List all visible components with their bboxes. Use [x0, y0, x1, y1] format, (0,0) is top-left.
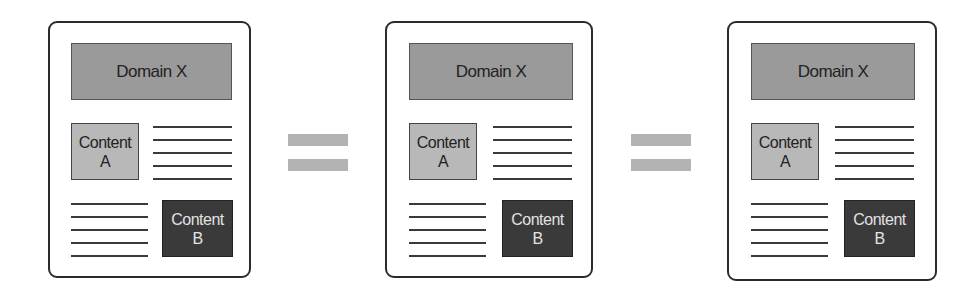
- content-b-box: Content B: [844, 200, 915, 257]
- content-a-box: Content A: [751, 123, 819, 180]
- text-line: [71, 229, 148, 231]
- text-line: [409, 203, 486, 205]
- content-a-label-line2: A: [438, 152, 448, 171]
- text-line: [835, 152, 914, 154]
- text-line: [153, 165, 232, 167]
- content-a-label-line2: A: [780, 152, 790, 171]
- text-line: [493, 165, 572, 167]
- domain-header-box: Domain X: [71, 43, 232, 100]
- text-line: [71, 255, 148, 257]
- domain-header-box: Domain X: [751, 43, 915, 100]
- domain-header-box: Domain X: [409, 43, 573, 100]
- text-lines-right: [493, 126, 572, 191]
- text-line: [835, 165, 914, 167]
- text-line: [493, 139, 572, 141]
- equals-sign-1: [288, 134, 348, 184]
- content-b-label-line2: B: [874, 229, 884, 248]
- text-line: [153, 152, 232, 154]
- text-lines-right: [153, 126, 232, 191]
- text-line: [153, 139, 232, 141]
- text-line: [409, 255, 486, 257]
- content-a-label-line1: Content: [417, 133, 470, 152]
- content-b-label-line1: Content: [171, 210, 224, 229]
- content-a-label-line2: A: [100, 152, 110, 171]
- text-line: [493, 178, 572, 180]
- content-b-label-line2: B: [532, 229, 542, 248]
- text-line: [71, 203, 148, 205]
- content-a-label-line1: Content: [79, 133, 132, 152]
- text-lines-left: [409, 203, 486, 268]
- equals-bar-top: [631, 134, 691, 146]
- domain-label: Domain X: [456, 62, 527, 82]
- text-line: [409, 242, 486, 244]
- text-line: [153, 126, 232, 128]
- equals-bar-bottom: [631, 159, 691, 171]
- text-line: [751, 242, 828, 244]
- text-lines-left: [751, 203, 828, 268]
- text-line: [493, 126, 572, 128]
- text-lines-right: [835, 126, 914, 191]
- document-panel-3: Domain X Content A Content B: [727, 21, 937, 281]
- content-b-label-line1: Content: [511, 210, 564, 229]
- text-line: [751, 216, 828, 218]
- equals-sign-2: [631, 134, 691, 184]
- text-line: [751, 229, 828, 231]
- text-line: [71, 242, 148, 244]
- text-line: [409, 229, 486, 231]
- content-b-label-line2: B: [192, 229, 202, 248]
- content-b-label-line1: Content: [853, 210, 906, 229]
- content-a-label-line1: Content: [759, 133, 812, 152]
- text-line: [835, 126, 914, 128]
- text-line: [751, 255, 828, 257]
- content-a-box: Content A: [409, 123, 477, 180]
- equals-bar-top: [288, 134, 348, 146]
- content-b-box: Content B: [502, 200, 573, 257]
- text-line: [835, 178, 914, 180]
- text-line: [835, 139, 914, 141]
- domain-label: Domain X: [116, 62, 187, 82]
- text-lines-left: [71, 203, 148, 268]
- domain-label: Domain X: [798, 62, 869, 82]
- text-line: [153, 178, 232, 180]
- content-a-box: Content A: [71, 123, 139, 180]
- document-panel-1: Domain X Content A Content B: [48, 21, 251, 278]
- equals-bar-bottom: [288, 159, 348, 171]
- text-line: [409, 216, 486, 218]
- text-line: [493, 152, 572, 154]
- text-line: [71, 216, 148, 218]
- content-b-box: Content B: [162, 200, 233, 257]
- text-line: [751, 203, 828, 205]
- document-panel-2: Domain X Content A Content B: [385, 21, 593, 278]
